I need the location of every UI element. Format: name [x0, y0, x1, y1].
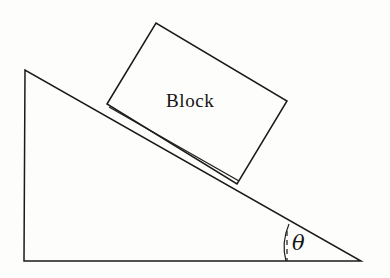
block-incline-contact-line [109, 107, 239, 181]
theta-angle-label: θ [292, 231, 305, 255]
block-label: Block [166, 90, 214, 112]
inclined-plane-figure: Block θ [0, 0, 390, 278]
diagram-canvas [0, 0, 390, 278]
